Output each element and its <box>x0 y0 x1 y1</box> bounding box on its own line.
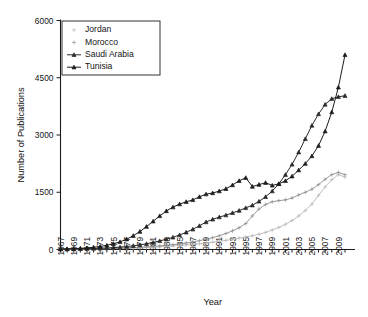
data-point-marker <box>244 176 248 180</box>
x-tick-label: 2003 <box>294 237 304 256</box>
y-tick-label: 1500 <box>35 187 54 197</box>
legend-label: Jordan <box>85 24 111 34</box>
series-line-saudi-arabia <box>61 96 346 249</box>
series-container <box>59 53 348 251</box>
x-tick-label: 2001 <box>281 237 291 256</box>
x-tick-label: 2009 <box>334 237 344 256</box>
y-tick-label: 6000 <box>35 16 54 26</box>
x-tick-label: 1967 <box>56 237 66 256</box>
y-tick-label: 0 <box>49 245 54 255</box>
data-point-marker <box>336 85 340 89</box>
x-tick-label: 2005 <box>307 237 317 256</box>
series-tunisia <box>59 53 348 251</box>
data-point-marker <box>323 129 327 133</box>
data-point-marker <box>197 224 201 228</box>
x-axis-title: Year <box>203 297 222 307</box>
y-tick-label: 3000 <box>35 130 54 140</box>
publications-line-chart: 0150030004500600019671969197119731975197… <box>0 0 368 317</box>
chart-figure: 0150030004500600019671969197119731975197… <box>0 0 368 317</box>
y-tick-label: 4500 <box>35 73 54 83</box>
data-point-marker <box>164 209 168 213</box>
x-tick-label: 2007 <box>320 237 330 256</box>
data-point-marker <box>343 53 347 57</box>
data-point-marker <box>297 150 301 154</box>
data-point-marker <box>191 227 195 231</box>
data-point-marker <box>224 187 228 191</box>
x-tick-label: 1969 <box>69 237 79 256</box>
y-axis-title: Number of Publications <box>16 87 26 182</box>
series-line-tunisia <box>61 55 346 249</box>
legend-label: Saudi Arabia <box>85 49 134 59</box>
data-point-marker <box>317 144 321 148</box>
x-tick-label: 1999 <box>267 237 277 256</box>
legend-label: Morocco <box>85 37 118 47</box>
x-tick-label: 1991 <box>214 237 224 256</box>
data-point-marker <box>264 181 268 185</box>
x-tick-label: 1997 <box>254 237 264 256</box>
data-point-marker <box>290 162 294 166</box>
data-point-marker <box>330 110 334 114</box>
chart-legend: JordanMoroccoSaudi ArabiaTunisia <box>62 21 160 75</box>
data-point-marker <box>250 203 254 207</box>
x-tick-label: 1995 <box>241 237 251 256</box>
legend-label: Tunisia <box>85 61 113 71</box>
data-point-marker <box>303 137 307 141</box>
series-saudi-arabia <box>59 94 348 251</box>
